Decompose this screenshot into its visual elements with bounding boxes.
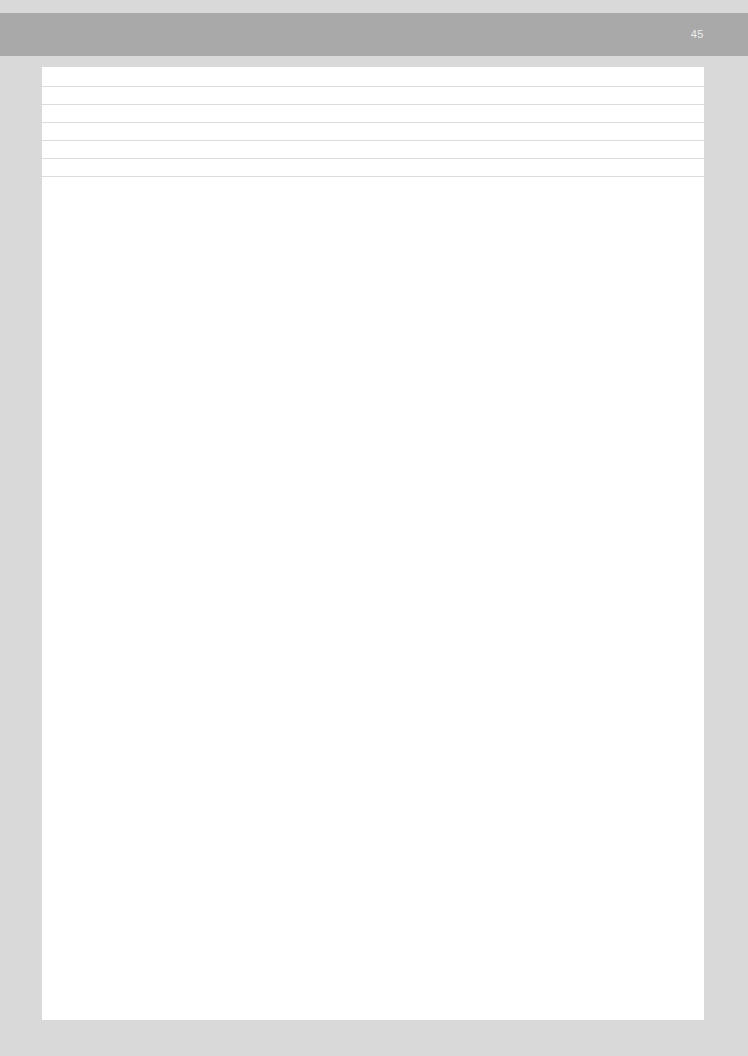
- ruled-line: [42, 122, 704, 123]
- ruled-line: [42, 140, 704, 141]
- ruled-line: [42, 86, 704, 87]
- ruled-line: [42, 158, 704, 159]
- header-band: [0, 13, 748, 56]
- notes-sheet: [42, 67, 704, 1020]
- ruled-line: [42, 176, 704, 177]
- ruled-line: [42, 104, 704, 105]
- page-number: 45: [691, 28, 704, 40]
